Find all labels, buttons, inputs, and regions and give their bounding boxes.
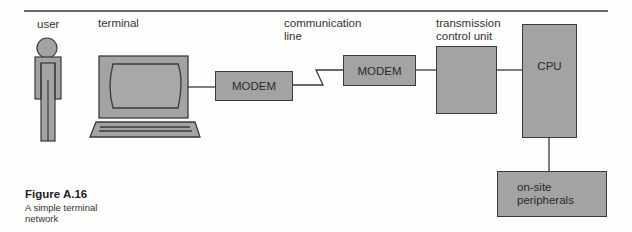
communication-line-label: communication line (284, 17, 361, 43)
modem-box-1: MODEM (215, 71, 293, 101)
modem-box-2: MODEM (343, 55, 416, 86)
user-icon (35, 38, 61, 141)
figure-caption: A simple terminal network (25, 202, 135, 224)
terminal-label: terminal (98, 17, 139, 30)
terminal-icon (90, 56, 200, 137)
user-label: user (37, 18, 59, 31)
tcu-label: transmission control unit (436, 17, 501, 43)
figure-title: Figure A.16 (25, 188, 87, 200)
tcu-box (436, 46, 497, 114)
cpu-box: CPU (522, 24, 577, 138)
peripherals-box: on-site peripherals (497, 171, 607, 217)
